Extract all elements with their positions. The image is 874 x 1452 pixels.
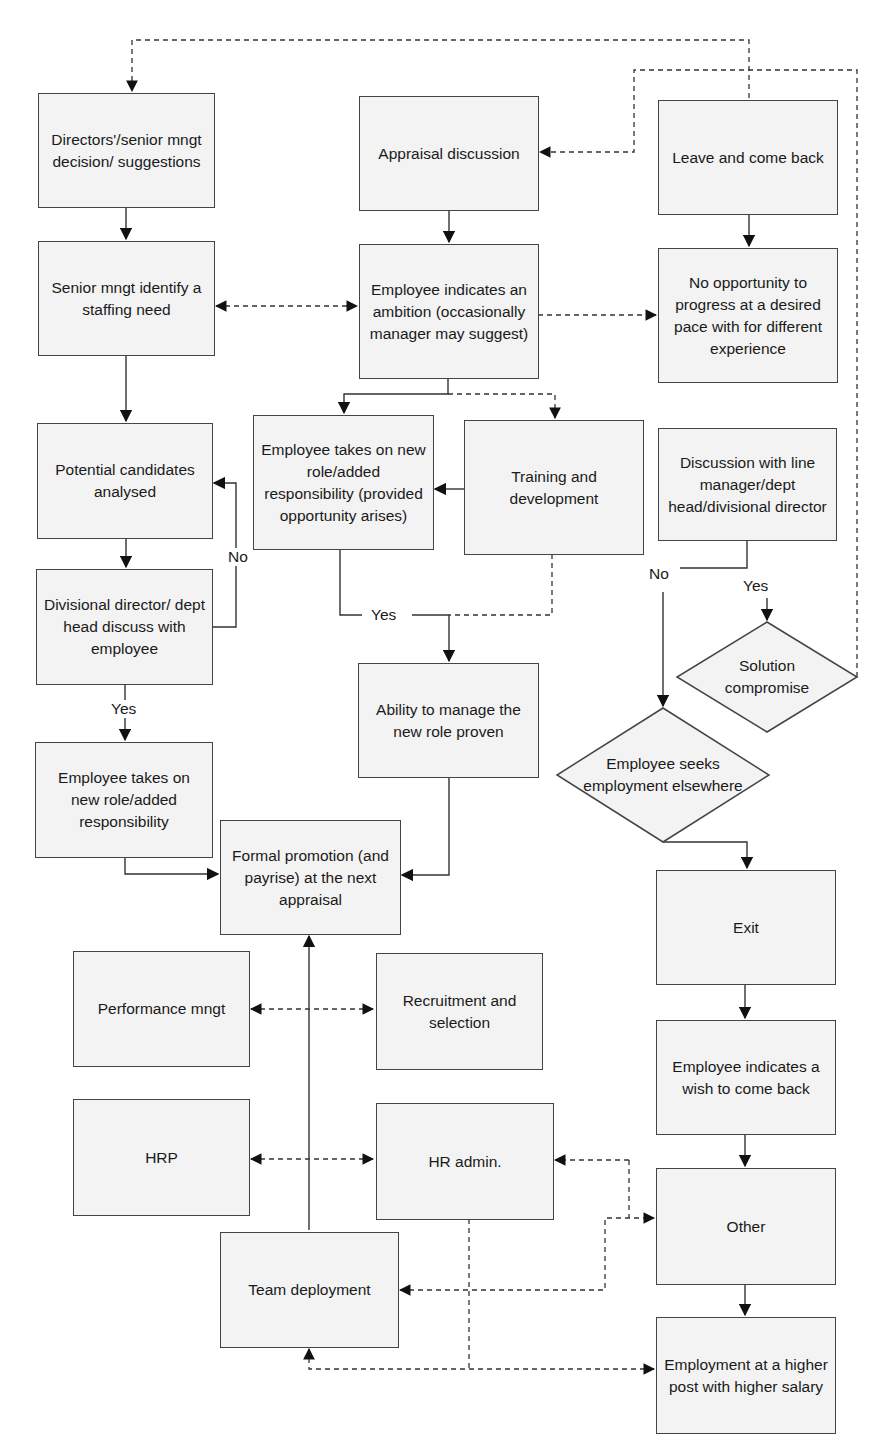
- edge-label-yes-middle: Yes: [368, 606, 399, 624]
- node-label: Leave and come back: [672, 147, 824, 169]
- formal-promotion-box: Formal promotion (and payrise) at the ne…: [220, 820, 401, 935]
- exit-box: Exit: [656, 870, 836, 985]
- node-label: Recruitment and selection: [383, 990, 536, 1034]
- takes-on-role-box: Employee takes on new role/added respons…: [35, 742, 213, 858]
- discussion-line-manager-box: Discussion with line manager/dept head/d…: [658, 428, 837, 541]
- node-label: Divisional director/ dept head discuss w…: [43, 594, 206, 660]
- team-deployment-box: Team deployment: [220, 1232, 399, 1348]
- node-label: Team deployment: [248, 1279, 370, 1301]
- node-label: Solution compromise: [697, 655, 837, 699]
- solution-compromise-label: Solution compromise: [697, 647, 837, 707]
- hrp-box: HRP: [73, 1099, 250, 1216]
- employee-ambition-box: Employee indicates an ambition (occasion…: [359, 244, 539, 379]
- hr-admin-box: HR admin.: [376, 1103, 554, 1220]
- node-label: Ability to manage the new role proven: [365, 699, 532, 743]
- recruitment-selection-box: Recruitment and selection: [376, 953, 543, 1070]
- edge-label-no-right: No: [646, 565, 672, 583]
- node-label: HRP: [145, 1147, 178, 1169]
- node-label: Potential candidates analysed: [44, 459, 206, 503]
- node-label: Employee takes on new role/added respons…: [260, 439, 427, 527]
- node-label: Employment at a higher post with higher …: [663, 1354, 829, 1398]
- node-label: Discussion with line manager/dept head/d…: [665, 452, 830, 518]
- leave-come-back-box: Leave and come back: [658, 100, 838, 215]
- no-opportunity-box: No opportunity to progress at a desired …: [658, 248, 838, 383]
- seeks-elsewhere-label: Employee seeks employment elsewhere: [583, 735, 743, 815]
- other-box: Other: [656, 1168, 836, 1285]
- node-label: Senior mngt identify a staffing need: [45, 277, 208, 321]
- senior-identify-need-box: Senior mngt identify a staffing need: [38, 241, 215, 356]
- takes-on-provided-box: Employee takes on new role/added respons…: [253, 415, 434, 550]
- performance-mngt-box: Performance mngt: [73, 951, 250, 1067]
- node-label: Performance mngt: [98, 998, 226, 1020]
- edge-label-no-left: No: [225, 548, 251, 566]
- appraisal-discussion-box: Appraisal discussion: [359, 96, 539, 211]
- wish-to-come-back-box: Employee indicates a wish to come back: [656, 1020, 836, 1135]
- node-label: Appraisal discussion: [378, 143, 519, 165]
- node-label: Exit: [733, 917, 759, 939]
- divisional-director-discuss-box: Divisional director/ dept head discuss w…: [36, 569, 213, 685]
- node-label: Directors'/senior mngt decision/ suggest…: [45, 129, 208, 173]
- ability-proven-box: Ability to manage the new role proven: [358, 663, 539, 778]
- node-label: Employee indicates an ambition (occasion…: [366, 279, 532, 345]
- node-label: HR admin.: [428, 1151, 501, 1173]
- node-label: Formal promotion (and payrise) at the ne…: [227, 845, 394, 911]
- training-development-box: Training and development: [464, 420, 644, 555]
- node-label: Employee indicates a wish to come back: [663, 1056, 829, 1100]
- potential-candidates-box: Potential candidates analysed: [37, 423, 213, 539]
- node-label: Employee seeks employment elsewhere: [583, 753, 743, 797]
- edge-label-yes-right: Yes: [740, 577, 771, 595]
- node-label: No opportunity to progress at a desired …: [665, 272, 831, 360]
- node-label: Training and development: [471, 466, 637, 510]
- edge-label-yes-left: Yes: [108, 700, 139, 718]
- node-label: Other: [727, 1216, 766, 1238]
- directors-decision-box: Directors'/senior mngt decision/ suggest…: [38, 93, 215, 208]
- higher-post-box: Employment at a higher post with higher …: [656, 1317, 836, 1434]
- node-label: Employee takes on new role/added respons…: [42, 767, 206, 833]
